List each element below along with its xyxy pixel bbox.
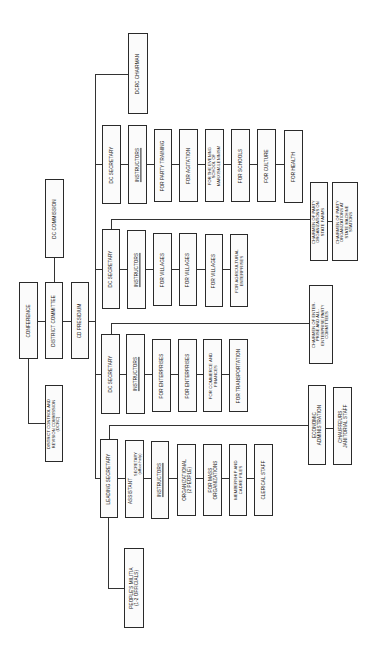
branch4-head-box: LEADING SECRETARY	[100, 439, 118, 518]
branch3-section-label: FOR ENTERPRISES	[185, 353, 190, 398]
committee-to-commission	[54, 258, 55, 282]
dcrc-label: DISTRICT CONTROL AND REVISION COMMISSION…	[47, 398, 61, 448]
conference-to-dcrc-h	[28, 423, 45, 424]
presidium-to-spine	[89, 321, 95, 322]
row4-attach-v	[109, 425, 110, 439]
branch2-head-label: DC SECRETARY	[108, 251, 113, 288]
branch1-attached-box: CHAIRMEN OF PARTY ORGANIZATIONS ON STATE…	[310, 182, 328, 261]
district-committee-label: DISTRICT COMMITTEE	[51, 295, 56, 347]
militia-link-h	[108, 588, 124, 589]
peoples-militia-box: PEOPLE'S MILITIA (1-2 OFFICIALS)	[124, 548, 144, 628]
branch3-instructors-label: INSTRUCTORS	[133, 357, 138, 391]
branch4-assistant-label: ASSISTANT	[128, 478, 133, 504]
attach-between-admin	[326, 428, 333, 429]
branch4-attached-label: ECONOMIC ADMINISTRATION	[312, 405, 322, 445]
branch4-attached-label: CHAUFFEURS, JANITORIAL STAFF	[337, 404, 347, 447]
branch3-section-label: FOR TRANSPORTATION	[236, 348, 241, 402]
branch2-section-box: FOR AGRICULTURAL ENTERPRISES	[230, 234, 248, 307]
branch1-attached-box: CHAIRMEN OF PARTY ORGANIZATIONS AT STATE…	[332, 182, 358, 261]
branch1-instructors-label: INSTRUCTORS	[135, 147, 140, 181]
branch2-section-label: FOR VILLAGES	[185, 252, 190, 286]
branch2-section-box: FOR VILLAGES	[153, 233, 172, 306]
branch4-section-label: ORGANIZATIONAL (2 PEOPLE)	[181, 459, 191, 501]
dc-commission-box: DC COMMISSION	[45, 179, 64, 258]
branch1-section-label: FOR CULTURE	[264, 149, 269, 182]
branch4-section-box: ORGANIZATIONAL (2 PEOPLE)	[177, 444, 196, 516]
branch1-instructors-box: INSTRUCTORS	[128, 125, 147, 204]
branch3-section-box: FOR ENTERPRISES	[178, 339, 197, 412]
branch1-section-box: FOR HEALTH	[284, 130, 303, 203]
dc-commission-label: DC COMMISSION	[52, 199, 57, 238]
branch1-section-label: FOR PARTY TRAINING	[160, 140, 165, 191]
branch2-head-box: DC SECRETARY	[102, 229, 120, 309]
branch4-instructors-box: INSTRUCTORS	[151, 441, 169, 519]
branch1-section-label: FOR THE EVENING SCHOOL OF MARXISM-LENINI…	[208, 145, 221, 186]
peoples-militia-label: PEOPLE'S MILITIA (1-2 OFFICIALS)	[129, 567, 139, 608]
militia-link-v	[108, 518, 109, 588]
branch1-head-label: DC SECRETARY	[109, 146, 114, 183]
row2-attach-link	[111, 219, 310, 220]
branch2-attached-label: CHAIRMEN OF ENTER- PRISE AND ALL- ENTERP…	[312, 302, 330, 348]
spine-to-dcrc-chairman	[95, 74, 128, 75]
branch4-section-box: MEMBERSHIP AND CADRE FILES	[229, 444, 247, 516]
branch4-section-box: CLERICAL STAFF	[254, 444, 273, 516]
branch4-attached-box: CHAUFFEURS, JANITORIAL STAFF	[333, 387, 352, 465]
conference-label: CONFERENCE	[26, 304, 31, 337]
row3-attach-v	[111, 323, 112, 334]
row2-attach-v	[111, 219, 112, 229]
branch2-section-label: FOR VILLAGES	[160, 252, 165, 286]
branch3-section-label: FOR ENTERPRISES	[159, 353, 164, 398]
branch2-section-label: FOR AGRICULTURAL ENTERPRISES	[234, 249, 244, 292]
branch1-attached-label: CHAIRMEN OF PARTY ORGANIZATIONS AT STATE…	[336, 200, 354, 244]
branch3-instructors-box: INSTRUCTORS	[126, 334, 145, 414]
branch2-attached-box: CHAIRMEN OF ENTER- PRISE AND ALL- ENTERP…	[309, 285, 333, 364]
branch4-head-label: LEADING SECRETARY	[106, 453, 111, 504]
conference-to-dcrc	[28, 359, 29, 423]
row4-attach-link	[109, 425, 308, 426]
branch1-attached-label: CHAIRMEN OF PARTY ORGANIZATIONS ON STATE…	[312, 200, 325, 244]
conference-box: CONFERENCE	[19, 282, 38, 359]
branch4-section-label: CLERICAL STAFF	[261, 460, 266, 499]
dcrc-box: DISTRICT CONTROL AND REVISION COMMISSION…	[45, 385, 63, 462]
branch3-section-label: FOR COMMERCE AND FINANCES	[207, 352, 217, 398]
branch4-secretary-label: SECRETARY (office help)	[134, 452, 142, 476]
branch1-head-box: DC SECRETARY	[102, 125, 121, 204]
dcrc-chairman-box: DCRC CHAIRMAN	[128, 33, 148, 114]
row3-attach-link	[111, 323, 309, 324]
branch1-section-box: FOR CULTURE	[257, 129, 276, 202]
branch4-section-box: FOR MASS ORGANIZATIONS	[203, 444, 222, 516]
branch2-instructors-box: INSTRUCTORS	[127, 230, 146, 309]
branch1-section-label: FOR AGITATION	[186, 147, 191, 183]
branch4-section-label: MEMBERSHIP AND CADRE FILES	[233, 460, 243, 499]
conference-to-committee	[38, 321, 45, 322]
dcrc-chairman-label: DCRC CHAIRMAN	[135, 53, 140, 93]
branch1-section-box: FOR PARTY TRAINING	[154, 129, 172, 202]
branch2-section-box: FOR VILLAGES	[179, 233, 197, 306]
branch3-head-label: DC SECRETARY	[108, 356, 113, 393]
branch2-section-label: FOR VILLAGES	[211, 253, 216, 287]
branch1-section-box: FOR THE EVENING SCHOOL OF MARXISM-LENINI…	[205, 129, 224, 202]
branch2-instructors-label: INSTRUCTORS	[134, 252, 139, 286]
branch1-section-box: FOR AGITATION	[179, 129, 198, 202]
cd-presidium-label: CD PRESIDIUM	[77, 303, 82, 338]
committee-to-presidium	[63, 321, 71, 322]
cd-presidium-box: CD PRESIDIUM	[71, 282, 89, 359]
district-committee-box: DISTRICT COMMITTEE	[45, 282, 63, 359]
branch3-section-box: FOR COMMERCE AND FINANCES	[203, 339, 222, 412]
branch3-head-box: DC SECRETARY	[101, 334, 120, 414]
branch4-section-label: FOR MASS ORGANIZATIONS	[207, 461, 217, 500]
branch2-section-box: FOR VILLAGES	[205, 234, 223, 307]
branch4-attached-box: ECONOMIC ADMINISTRATION	[308, 385, 326, 465]
branch1-section-label: FOR HEALTH	[291, 152, 296, 182]
branch4-instructors-label: INSTRUCTORS	[157, 463, 162, 497]
branch3-section-box: FOR ENTERPRISES	[152, 339, 171, 412]
branch3-section-box: FOR TRANSPORTATION	[229, 339, 248, 412]
main-spine-line	[95, 74, 96, 479]
branch1-section-box: FOR SCHOOLS	[231, 129, 250, 202]
branch1-section-label: FOR SCHOOLS	[238, 148, 243, 183]
branch4-assistant-box: ASSISTANT SECRETARY (office help)	[125, 440, 144, 518]
